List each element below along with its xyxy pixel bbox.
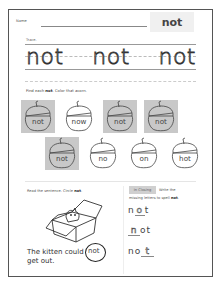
in-closing-tag: In Closing	[129, 186, 156, 194]
name-field-line[interactable]	[41, 26, 147, 27]
trace-words: not not not	[26, 43, 196, 70]
acorn-item[interactable]: not	[21, 100, 55, 133]
column-divider	[123, 186, 124, 274]
acorn-item[interactable]: not	[45, 137, 79, 170]
spell-row-3: not	[128, 246, 154, 257]
acorn-word: no	[86, 154, 120, 163]
acorn-word: on	[127, 154, 161, 163]
trace-word[interactable]: not	[158, 43, 196, 70]
spell-row-1: not	[128, 205, 149, 216]
acorn-word: not	[144, 117, 178, 126]
acorn-item[interactable]: no	[86, 137, 120, 170]
trace-label: Trace.	[26, 38, 37, 42]
find-instruction: Find each not. Color that acorn.	[26, 88, 87, 93]
read-instruction: Read the sentence. Circle not.	[27, 189, 82, 193]
acorn-word: not	[103, 117, 137, 126]
worksheet-title: not	[150, 12, 194, 32]
spell-row-2: not	[128, 225, 151, 236]
acorn-item[interactable]: now	[62, 100, 96, 133]
write-instruction-line1: Write the	[159, 188, 176, 192]
acorn-item[interactable]: hot	[168, 137, 202, 170]
section-divider	[25, 81, 196, 82]
name-label: Name	[16, 19, 27, 23]
acorn-word: not	[45, 154, 79, 163]
trace-word[interactable]: not	[26, 43, 64, 70]
missing-letter-blank[interactable]: t	[141, 246, 154, 257]
acorn-word: hot	[168, 154, 202, 163]
acorn-word: now	[62, 117, 96, 126]
missing-letter-blank[interactable]: n	[128, 225, 140, 236]
missing-letter-blank[interactable]: o	[135, 205, 145, 216]
answer-circle[interactable]	[85, 243, 106, 262]
acorn-item[interactable]: on	[127, 137, 161, 170]
trace-word[interactable]: not	[92, 43, 130, 70]
kitten-in-box-illustration	[44, 196, 104, 244]
section-divider	[25, 181, 196, 182]
acorn-word: not	[21, 117, 55, 126]
write-instruction-line2: missing letters to spell not.	[129, 196, 179, 200]
acorn-item[interactable]: not	[103, 100, 137, 133]
acorn-item[interactable]: not	[144, 100, 178, 133]
